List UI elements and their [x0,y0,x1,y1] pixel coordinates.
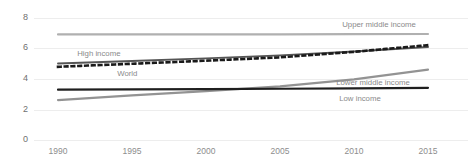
line-chart: 8 6 4 2 0 1990 1995 2000 2005 2010 2015 … [0,0,472,164]
series-label-lower-middle-income: Lower middle income [336,78,410,87]
series-label-low-income: Low income [339,94,381,103]
series-label-upper-middle-income: Upper middle income [342,20,416,29]
series-line-low-income [58,88,428,90]
series-label-world: World [117,69,137,78]
series-label-high-income: High income [77,49,120,58]
